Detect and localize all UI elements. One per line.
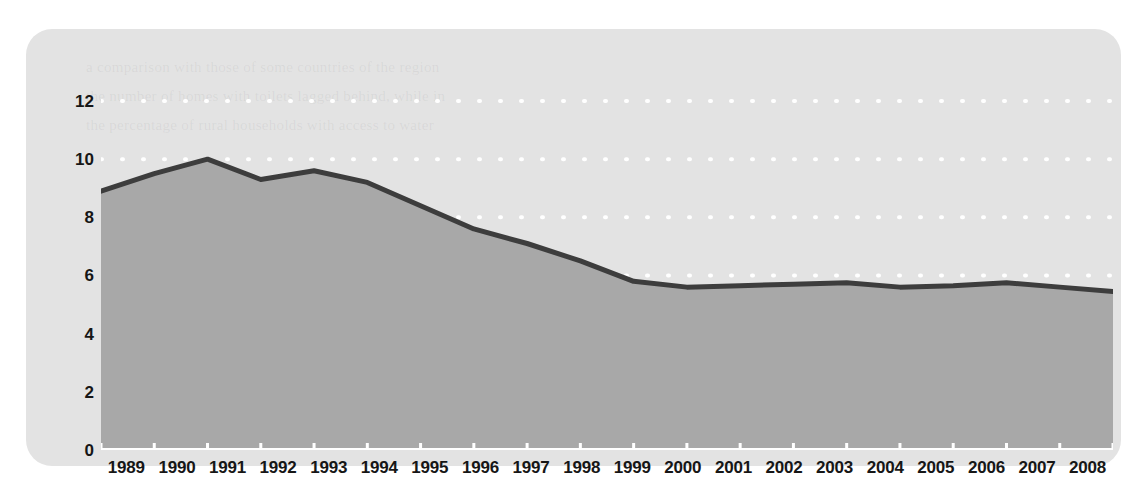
x-tick-label: 2005 xyxy=(911,453,962,487)
x-tick-label: 1993 xyxy=(303,453,354,487)
y-tick-label: 0 xyxy=(54,442,94,459)
y-tick-label: 4 xyxy=(54,325,94,342)
x-axis: 1989199019911992199319941995199619971998… xyxy=(101,453,1113,487)
x-tick-label: 1990 xyxy=(152,453,203,487)
x-tick-label: 1994 xyxy=(354,453,405,487)
chart-figure: a comparison with those of some countrie… xyxy=(0,0,1147,491)
y-tick-label: 12 xyxy=(54,92,94,109)
x-tick-label: 2002 xyxy=(759,453,810,487)
plot-area xyxy=(101,69,1113,450)
x-tick-label: 2004 xyxy=(860,453,911,487)
x-tick-label: 2007 xyxy=(1012,453,1063,487)
y-tick-label: 10 xyxy=(54,151,94,168)
x-tick-label: 1999 xyxy=(607,453,658,487)
y-tick-label: 8 xyxy=(54,209,94,226)
x-tick-label: 2001 xyxy=(708,453,759,487)
x-tick-label: 1995 xyxy=(405,453,456,487)
x-tick-label: 1998 xyxy=(556,453,607,487)
x-tick-label: 1992 xyxy=(253,453,304,487)
area-fill xyxy=(101,159,1113,450)
x-tick-label: 2003 xyxy=(809,453,860,487)
y-tick-label: 2 xyxy=(54,383,94,400)
x-tick-label: 1997 xyxy=(506,453,557,487)
area-chart-svg xyxy=(101,69,1113,450)
x-tick-label: 2006 xyxy=(961,453,1012,487)
chart-card: a comparison with those of some countrie… xyxy=(26,29,1121,466)
x-tick-label: 2008 xyxy=(1062,453,1113,487)
x-tick-label: 1989 xyxy=(101,453,152,487)
y-tick-label: 6 xyxy=(54,267,94,284)
y-axis: 024681012 xyxy=(46,69,94,450)
x-tick-label: 2000 xyxy=(658,453,709,487)
x-tick-label: 1996 xyxy=(455,453,506,487)
x-tick-label: 1991 xyxy=(202,453,253,487)
